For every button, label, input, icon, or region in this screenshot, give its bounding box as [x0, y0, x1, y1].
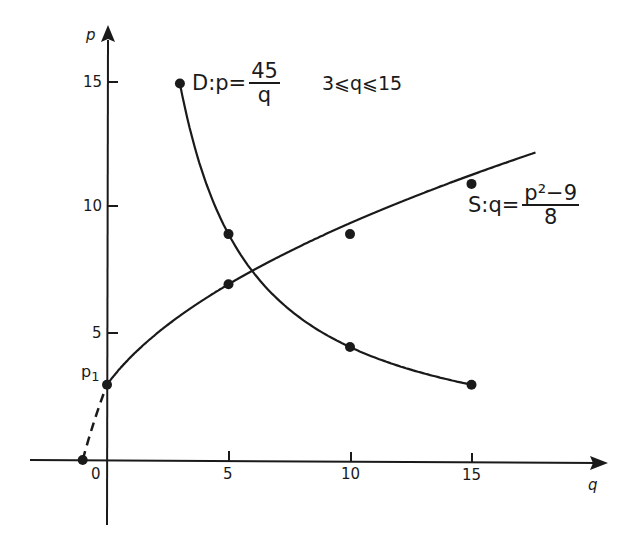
y-axis	[107, 40, 108, 525]
y-axis-label: p	[86, 28, 96, 43]
demand-prefix: D:p=	[192, 71, 246, 95]
p1-sub: 1	[91, 369, 99, 384]
x-tick-label: 10	[341, 467, 360, 482]
supply-numerator: p²−9	[522, 182, 579, 206]
supply-prefix: S:q=	[468, 193, 519, 217]
x-axis-label: q	[588, 478, 598, 493]
p1-label: p1	[81, 364, 99, 383]
demand-formula: D:p= 45 q	[192, 60, 280, 106]
data-point	[345, 342, 355, 352]
x-tick-label: 0	[91, 467, 101, 482]
data-point	[345, 229, 355, 239]
data-point	[224, 229, 234, 239]
y-tick-label: 5	[92, 326, 102, 341]
data-point	[175, 79, 185, 89]
y-tick-label: 15	[83, 75, 102, 90]
p1-main: p	[81, 362, 91, 381]
supply-fraction: p²−9 8	[522, 182, 579, 228]
x-tick-label: 15	[462, 468, 481, 483]
data-point	[467, 380, 477, 390]
data-point	[102, 380, 112, 390]
supply-denominator: 8	[544, 206, 557, 228]
x-axis	[30, 460, 598, 463]
demand-denominator: q	[258, 84, 271, 106]
demand-fraction: 45 q	[249, 60, 280, 106]
supply-curve-dashed	[83, 385, 107, 460]
demand-numerator: 45	[249, 60, 280, 84]
data-point	[78, 455, 88, 465]
x-tick-label: 5	[223, 467, 233, 482]
y-tick-label: 10	[83, 199, 102, 214]
y-axis-arrow-icon	[101, 25, 115, 42]
data-point	[224, 279, 234, 289]
supply-formula: S:q= p²−9 8	[468, 182, 579, 228]
domain-condition: 3⩽q⩽15	[322, 72, 402, 94]
data-points	[78, 79, 477, 466]
